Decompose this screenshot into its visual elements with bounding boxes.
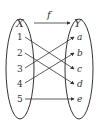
domain-element-5: 5 [17, 94, 23, 104]
domain-element-4: 4 [17, 79, 23, 89]
mapping-diagram: X Y f 1 2 3 4 5 a b c d e [0, 0, 102, 122]
domain-element-2: 2 [17, 48, 23, 58]
domain-element-3: 3 [17, 64, 23, 74]
codomain-element-c: c [77, 64, 82, 74]
codomain-element-d: d [77, 79, 83, 89]
function-label: f [46, 9, 53, 20]
codomain-element-b: b [77, 48, 83, 58]
codomain-elements: a b c d e [77, 32, 83, 104]
codomain-element-a: a [77, 32, 82, 42]
codomain-label: Y [74, 17, 83, 30]
domain-elements: 1 2 3 4 5 [17, 32, 23, 104]
domain-element-1: 1 [17, 32, 23, 42]
codomain-element-e: e [77, 94, 82, 104]
domain-label: X [15, 17, 25, 30]
